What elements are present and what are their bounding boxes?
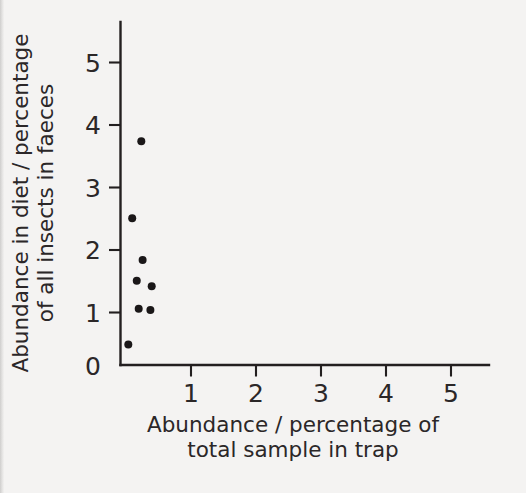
data-point xyxy=(146,306,154,314)
data-point xyxy=(133,277,141,285)
x-axis-title-line-2: total sample in trap xyxy=(60,437,526,462)
data-point xyxy=(135,305,143,313)
data-point xyxy=(128,214,136,222)
data-point xyxy=(124,340,132,348)
data-point xyxy=(137,137,145,145)
x-tick-label-5: 5 xyxy=(443,381,459,406)
x-tick-label-3: 3 xyxy=(313,381,329,406)
y-tick-label-2: 2 xyxy=(85,238,101,263)
y-tick-label-4: 4 xyxy=(85,113,101,138)
x-axis-title: Abundance / percentage of total sample i… xyxy=(0,412,526,463)
data-point xyxy=(139,256,147,264)
x-tick-label-1: 1 xyxy=(183,381,199,406)
x-axis-title-line-1: Abundance / percentage of xyxy=(60,412,526,437)
y-axis-title-line-1: Abundance in diet / percentage xyxy=(8,18,33,388)
x-tick-label-2: 2 xyxy=(248,381,264,406)
x-tick-label-4: 4 xyxy=(378,381,394,406)
y-tick-label-1: 1 xyxy=(85,300,101,325)
y-tick-label-5: 5 xyxy=(85,50,101,75)
y-tick-label-0: 0 xyxy=(85,354,101,379)
y-tick-label-3: 3 xyxy=(85,175,101,200)
y-axis-title-line-2: of all insects in faeces xyxy=(33,18,58,388)
data-point-group xyxy=(124,137,155,348)
data-point xyxy=(148,282,156,290)
y-axis-title: Abundance in diet / percentage of all in… xyxy=(8,18,59,388)
scatter-plot-figure: 5 4 3 2 1 0 1 2 3 4 5 Abundance / percen… xyxy=(0,0,526,493)
